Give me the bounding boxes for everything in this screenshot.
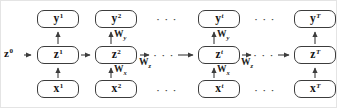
node-sup: t bbox=[221, 82, 223, 90]
initial-state-sup: 0 bbox=[9, 47, 13, 55]
weight-sub: z bbox=[149, 62, 152, 69]
node-xT: xT bbox=[294, 80, 336, 98]
node-sup: t bbox=[221, 12, 223, 20]
weight-sub: z bbox=[251, 62, 254, 69]
node-label: y1 bbox=[53, 13, 62, 25]
node-label: x2 bbox=[111, 83, 120, 95]
weight-base: W bbox=[241, 57, 251, 67]
node-label: xT bbox=[310, 83, 320, 95]
node-sup: 1 bbox=[60, 12, 64, 20]
node-x1: x1 bbox=[37, 80, 79, 98]
weight-sub: y bbox=[124, 34, 127, 41]
weight-base: W bbox=[114, 64, 124, 74]
weight-label-Wx-col2: Wx bbox=[114, 65, 127, 75]
node-label: zt bbox=[215, 49, 222, 61]
node-label: x1 bbox=[53, 83, 62, 95]
weight-label-Wx-colt: Wx bbox=[217, 65, 230, 75]
node-sup: t bbox=[221, 48, 223, 56]
weight-sub: x bbox=[124, 69, 127, 76]
node-y1: y1 bbox=[37, 10, 79, 28]
weight-label-Wy-col2: Wy bbox=[114, 30, 126, 40]
node-base: z bbox=[310, 48, 315, 60]
node-base: y bbox=[53, 12, 59, 24]
ellipsis-mid-right: · · · bbox=[253, 51, 274, 60]
weight-sub: y bbox=[227, 34, 230, 41]
node-z1: z1 bbox=[37, 46, 79, 64]
weight-base: W bbox=[217, 29, 227, 39]
weight-base: W bbox=[114, 29, 124, 39]
node-zT: zT bbox=[294, 46, 336, 64]
rnn-unrolled-diagram: z0 y1 z1 x1 y2 z2 x2 Wy Wx Wz yt zt xt W… bbox=[0, 0, 337, 108]
node-sup: 1 bbox=[59, 48, 63, 56]
node-sup: 2 bbox=[118, 82, 122, 90]
node-label: yT bbox=[310, 13, 320, 25]
node-label: z1 bbox=[54, 49, 63, 61]
node-label: xt bbox=[215, 83, 223, 95]
node-base: y bbox=[111, 12, 117, 24]
node-base: x bbox=[310, 82, 316, 94]
weight-label-Wz-colt: Wz bbox=[241, 58, 253, 68]
ellipsis-bottom-right: · · · bbox=[254, 86, 275, 95]
weight-base: W bbox=[139, 57, 149, 67]
weight-sub: x bbox=[227, 69, 230, 76]
node-sup: 1 bbox=[60, 82, 64, 90]
node-x2: x2 bbox=[95, 80, 137, 98]
node-xt: xt bbox=[198, 80, 240, 98]
weight-label-Wz-col2: Wz bbox=[139, 58, 151, 68]
node-yt: yt bbox=[198, 10, 240, 28]
node-sup: T bbox=[316, 82, 320, 90]
weight-label-Wy-colt: Wy bbox=[217, 30, 229, 40]
ellipsis-top-right: · · · bbox=[254, 15, 275, 24]
node-sup: T bbox=[316, 12, 320, 20]
ellipsis-top-left: · · · bbox=[156, 15, 177, 24]
node-sup: T bbox=[316, 48, 320, 56]
node-sup: 2 bbox=[118, 12, 122, 20]
node-base: z bbox=[215, 48, 220, 60]
node-yT: yT bbox=[294, 10, 336, 28]
initial-state-label: z0 bbox=[4, 48, 12, 59]
ellipsis-mid-left: · · · bbox=[153, 51, 174, 60]
node-zt: zt bbox=[198, 46, 240, 64]
node-label: yt bbox=[215, 13, 223, 25]
ellipsis-bottom-left: · · · bbox=[156, 86, 177, 95]
node-base: x bbox=[111, 82, 117, 94]
node-z2: z2 bbox=[95, 46, 137, 64]
node-label: z2 bbox=[112, 49, 121, 61]
node-sup: 2 bbox=[117, 48, 121, 56]
node-label: y2 bbox=[111, 13, 120, 25]
node-y2: y2 bbox=[95, 10, 137, 28]
node-base: y bbox=[310, 12, 316, 24]
node-label: zT bbox=[310, 49, 319, 61]
node-base: x bbox=[53, 82, 59, 94]
weight-base: W bbox=[217, 64, 227, 74]
